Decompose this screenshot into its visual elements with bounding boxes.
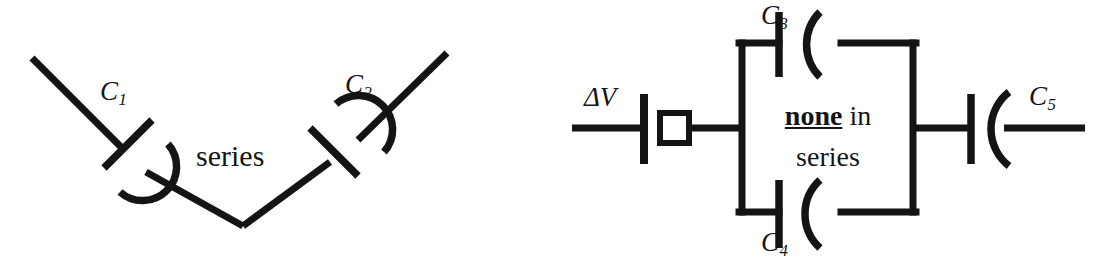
battery-short-plate-square <box>660 113 689 143</box>
capacitor-c3-curved-plate <box>807 12 820 77</box>
capacitor-c1-label: C1 <box>100 78 127 108</box>
verdict-rest: in <box>842 100 871 131</box>
capacitor-c3-label: C3 <box>761 2 788 32</box>
capacitor-c5-label: C5 <box>1029 83 1056 113</box>
right-circuit-verdict-label: none in series <box>742 96 914 177</box>
verdict-line-2: series <box>742 137 914 178</box>
battery-voltage-label: ΔV <box>584 84 616 111</box>
verdict-line-1: none in <box>742 96 914 137</box>
capacitor-c4-label: C4 <box>761 229 788 259</box>
capacitor-c1-straight-plate <box>104 120 152 168</box>
capacitor-c4-curved-plate <box>805 180 820 248</box>
capacitor-c2-curved-plate <box>336 95 393 152</box>
capacitor-c2-label: C2 <box>345 71 372 101</box>
figure-canvas: C1 C2 series <box>0 0 1105 267</box>
verdict-emphasis: none <box>785 100 843 131</box>
left-circuit-verdict-label: series <box>196 141 264 171</box>
left-circuit-drawing <box>0 0 552 267</box>
